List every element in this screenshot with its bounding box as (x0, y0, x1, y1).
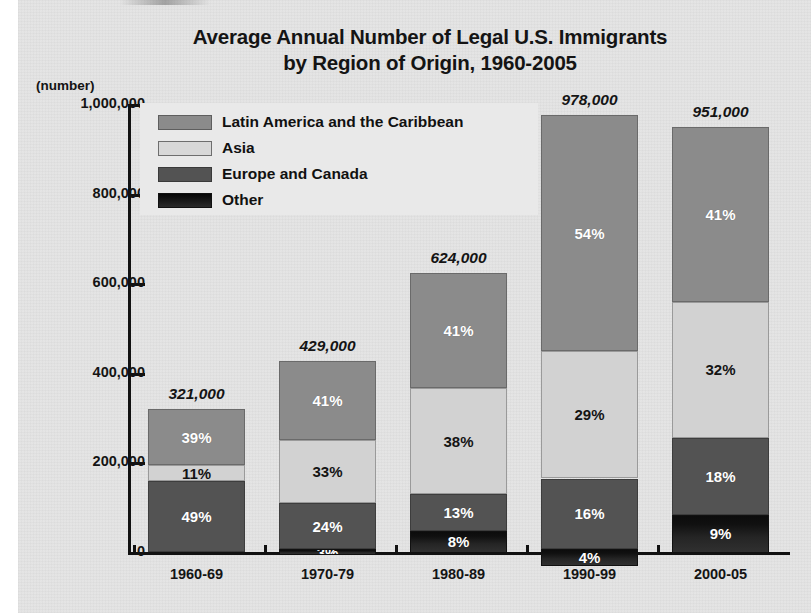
legend-item[interactable]: Latin America and the Caribbean (158, 112, 463, 132)
bar-segment-value-label: 29% (574, 406, 604, 423)
bar-segment-value-label: 41% (312, 392, 342, 409)
bar-segment[interactable]: 3% (279, 549, 376, 555)
y-axis-tick-label: 800,000 (43, 185, 145, 201)
bar-segment-value-label: 41% (443, 322, 473, 339)
legend-item[interactable]: Asia (158, 138, 255, 158)
legend-item-label: Asia (222, 139, 255, 157)
bar-segment[interactable]: 54% (541, 115, 638, 352)
stacked-bar[interactable]: 39%11%49%1% (148, 409, 245, 553)
bar-segment[interactable]: 49% (148, 481, 245, 551)
bar-segment-value-label: 9% (710, 525, 732, 542)
bar-segment[interactable]: 16% (541, 479, 638, 549)
bar-segment-value-label: 32% (705, 361, 735, 378)
legend-item[interactable]: Other (158, 190, 263, 210)
bar-segment-value-label: 38% (443, 433, 473, 450)
bar-segment-value-label: 24% (312, 518, 342, 535)
bar-segment[interactable]: 4% (541, 549, 638, 567)
bar-segment-value-label: 13% (443, 504, 473, 521)
chart-legend: Latin America and the CaribbeanAsiaEurop… (140, 103, 538, 215)
plot-area: 0200,000400,000600,000800,0001,000,000 1… (0, 0, 811, 613)
bar-segment[interactable]: 32% (672, 302, 769, 438)
x-axis-tick-label: 1960-69 (137, 566, 257, 582)
x-axis-tick (526, 545, 529, 555)
bar-segment-value-label: 39% (181, 429, 211, 446)
y-axis-line (128, 104, 131, 555)
bar-segment[interactable]: 41% (279, 361, 376, 440)
x-axis-tick (133, 545, 136, 555)
bar-segment-value-label: 41% (705, 206, 735, 223)
bar-segment[interactable]: 11% (148, 465, 245, 481)
legend-swatch-latin (158, 115, 212, 130)
stacked-bar[interactable]: 41%33%24%3% (279, 361, 376, 553)
y-axis-tick-label: 600,000 (43, 274, 145, 290)
bar-segment-value-label: 18% (705, 468, 735, 485)
legend-swatch-asia (158, 141, 212, 156)
stacked-bar[interactable]: 41%38%13%8% (410, 273, 507, 553)
y-axis-tick-label: 200,000 (43, 453, 145, 469)
bar-total-label: 321,000 (122, 385, 272, 403)
x-axis-tick-label: 2000-05 (661, 566, 781, 582)
x-axis-tick-label: 1970-79 (268, 566, 388, 582)
x-axis-tick-label: 1980-89 (399, 566, 519, 582)
bar-segment[interactable]: 9% (672, 515, 769, 553)
bar-segment[interactable]: 39% (148, 409, 245, 465)
x-axis-tick-label: 1990-99 (530, 566, 650, 582)
bar-segment[interactable]: 33% (279, 440, 376, 503)
bar-total-label: 951,000 (646, 103, 796, 121)
bar-segment-value-label: 4% (579, 549, 601, 566)
chart-page: Average Annual Number of Legal U.S. Immi… (0, 0, 811, 613)
bar-segment[interactable]: 8% (410, 531, 507, 553)
legend-swatch-other (158, 193, 212, 208)
legend-item-label: Latin America and the Caribbean (222, 113, 463, 131)
bar-segment-value-label: 33% (312, 463, 342, 480)
bar-segment-value-label: 8% (448, 533, 470, 550)
bar-segment[interactable]: 13% (410, 494, 507, 530)
bar-segment[interactable]: 29% (541, 351, 638, 478)
bar-segment-value-label: 1% (186, 552, 208, 554)
x-axis-tick (395, 545, 398, 555)
bar-segment[interactable]: 41% (410, 273, 507, 388)
legend-item-label: Europe and Canada (222, 165, 368, 183)
bar-segment-value-label: 49% (181, 508, 211, 525)
bar-segment-value-label: 11% (182, 465, 211, 481)
legend-item[interactable]: Europe and Canada (158, 164, 368, 184)
bar-segment[interactable]: 18% (672, 438, 769, 515)
bar-segment-value-label: 54% (574, 225, 604, 242)
legend-swatch-europe (158, 167, 212, 182)
y-axis-tick-label: 400,000 (43, 364, 145, 380)
legend-item-label: Other (222, 191, 263, 209)
stacked-bar[interactable]: 41%32%18%9% (672, 127, 769, 553)
x-axis-tick (264, 545, 267, 555)
bar-segment-value-label: 3% (317, 549, 339, 555)
bar-segment[interactable]: 1% (148, 552, 245, 554)
bar-segment-value-label: 16% (574, 505, 604, 522)
bar-segment[interactable]: 41% (672, 127, 769, 302)
bar-total-label: 429,000 (253, 337, 403, 355)
bar-segment[interactable]: 24% (279, 503, 376, 549)
bar-segment[interactable]: 38% (410, 388, 507, 494)
y-axis-tick-label: 1,000,000 (43, 95, 145, 111)
stacked-bar[interactable]: 54%29%16%4% (541, 115, 638, 553)
x-axis-tick (657, 545, 660, 555)
bar-total-label: 624,000 (384, 249, 534, 267)
y-axis-tick-label: 0 (43, 543, 145, 559)
